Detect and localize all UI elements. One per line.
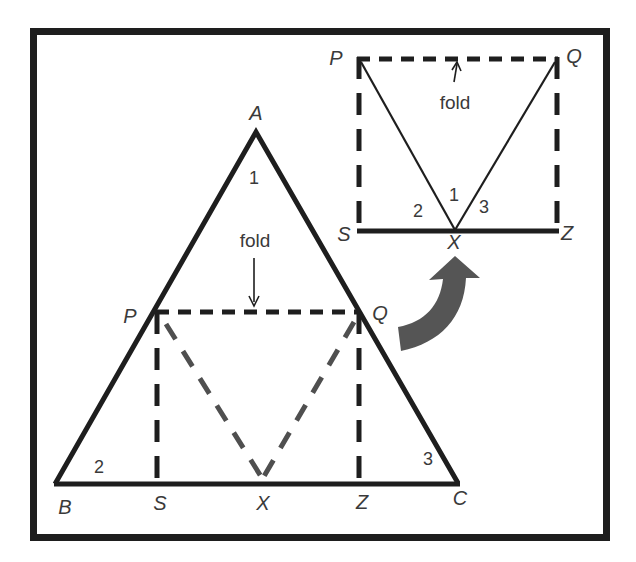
inset-angle-2: 2: [413, 201, 423, 221]
inset-line-px: [361, 62, 455, 230]
fold-label-inset: fold: [440, 92, 471, 113]
fold-line-px: [166, 324, 262, 478]
fold-line-qx: [263, 322, 354, 478]
inset-angle-1: 1: [449, 185, 459, 205]
outer-frame: [34, 32, 607, 538]
angle-3-main: 3: [423, 449, 433, 469]
label-c: C: [453, 487, 468, 509]
inset-label-s: S: [337, 223, 351, 245]
inset-line-qx: [455, 62, 555, 230]
main-triangle: fold A B C P Q S X Z 1 2 3: [54, 102, 468, 518]
fold-label-main: fold: [240, 230, 271, 251]
label-p: P: [123, 305, 137, 327]
label-q: Q: [372, 302, 388, 324]
angle-1-main: 1: [249, 168, 259, 188]
label-a: A: [248, 102, 262, 124]
inset-folded-rectangle: fold P Q S X Z 1 2 3: [329, 45, 581, 253]
inset-label-x: X: [446, 231, 461, 253]
label-b: B: [58, 496, 71, 518]
inset-label-q: Q: [566, 45, 582, 67]
label-s: S: [153, 492, 167, 514]
inset-label-p: P: [329, 47, 343, 69]
folding-triangle-diagram: fold A B C P Q S X Z 1 2 3 fold P Q: [0, 0, 636, 562]
inset-label-z: Z: [560, 222, 574, 244]
label-x: X: [255, 492, 270, 514]
label-z: Z: [355, 491, 369, 513]
inset-angle-3: 3: [479, 197, 489, 217]
curved-transition-arrow: [398, 256, 480, 351]
angle-2-main: 2: [94, 457, 104, 477]
